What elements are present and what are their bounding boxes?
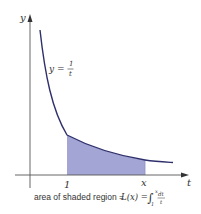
curve-label-numerator: 1 [69, 60, 73, 68]
caption-lower-limit: 1 [151, 201, 154, 207]
tick-x-label: x [141, 177, 147, 188]
curve-label-lhs: y = [48, 64, 65, 74]
log-integral-diagram: y t y = 1 t 1 x area of shaded region = … [0, 0, 201, 214]
curve-label-denominator: t [69, 70, 72, 78]
caption-prefix: area of shaded region = [34, 192, 124, 202]
tick-one-label: 1 [64, 179, 70, 190]
caption-denominator: t [160, 199, 163, 205]
t-axis-label: t [187, 177, 192, 188]
caption-numerator: dt [158, 191, 165, 197]
caption-function: L(x) = [120, 192, 148, 202]
curve-one-over-t [40, 30, 173, 163]
y-axis-arrow-icon [28, 14, 33, 22]
y-axis-label: y [19, 12, 26, 23]
